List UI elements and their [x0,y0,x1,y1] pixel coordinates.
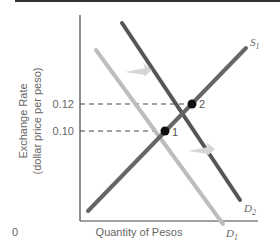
equilibrium-point-1 [161,127,170,136]
equilibrium-point-2 [188,100,197,109]
x-axis-label: Quantity of Pesos [96,226,183,238]
origin-label: 0 [12,226,18,238]
label-d2: D2 [243,202,256,217]
label-d1: D1 [225,227,238,242]
y-axis-sublabel: (dollar price per peso) [31,68,43,175]
y-axis-label: Exchange Rate [17,83,29,158]
ytick-0.10: 0.10 [53,125,74,137]
point-label-1: 1 [172,126,178,138]
label-s1: S1 [250,36,260,51]
exchange-rate-chart: 2 1 S1 D2 D1 0.12 0.10 0 Quantity of Pes… [0,0,280,247]
top-rule [15,0,280,2]
point-label-2: 2 [199,98,205,110]
ytick-0.12: 0.12 [53,98,74,110]
